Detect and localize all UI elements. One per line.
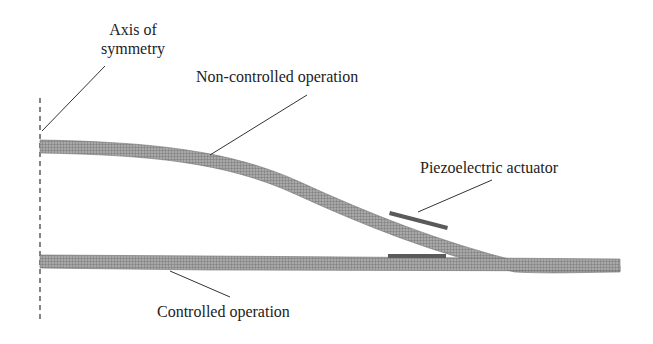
controlled-operation-label: Controlled operation bbox=[157, 302, 290, 321]
piezoelectric-actuator-label: Piezoelectric actuator bbox=[420, 158, 558, 177]
axis-of-symmetry-label: Axis of symmetry bbox=[88, 20, 178, 58]
piezo-leader-line bbox=[418, 180, 492, 212]
controlled-leader-line bbox=[170, 271, 230, 297]
axis-label-line1: Axis of bbox=[88, 20, 178, 39]
piezo-actuator-flat bbox=[388, 254, 446, 258]
non-controlled-operation-label: Non-controlled operation bbox=[196, 67, 358, 86]
controlled-plate bbox=[40, 255, 620, 271]
deflection-diagram: Axis of symmetry Non-controlled operatio… bbox=[0, 0, 653, 344]
axis-label-line2: symmetry bbox=[88, 39, 178, 58]
non-controlled-leader-line bbox=[210, 95, 307, 155]
axis-leader-line bbox=[42, 66, 105, 131]
